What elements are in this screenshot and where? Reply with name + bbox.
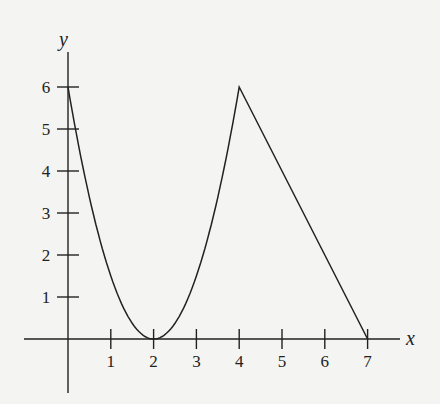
y-tick-label: 2 [42,246,51,265]
x-ticks: 1234567 [107,329,373,371]
x-tick-label: 6 [321,352,330,371]
y-tick-label: 6 [42,78,51,97]
x-tick-label: 2 [149,352,158,371]
x-tick-label: 5 [278,352,287,371]
y-tick-label: 1 [42,288,51,307]
x-tick-label: 3 [192,352,201,371]
x-tick-label: 7 [363,352,372,371]
y-tick-label: 5 [42,120,51,139]
y-tick-label: 4 [42,162,51,181]
x-axis-label: x [405,327,415,349]
x-tick-label: 4 [235,352,244,371]
x-tick-label: 1 [107,352,116,371]
y-axis-label: y [57,28,68,51]
y-tick-label: 3 [42,204,51,223]
function-curve [68,87,368,339]
y-ticks: 123456 [42,78,79,307]
function-graph: 1234567 123456 x y [0,0,440,404]
